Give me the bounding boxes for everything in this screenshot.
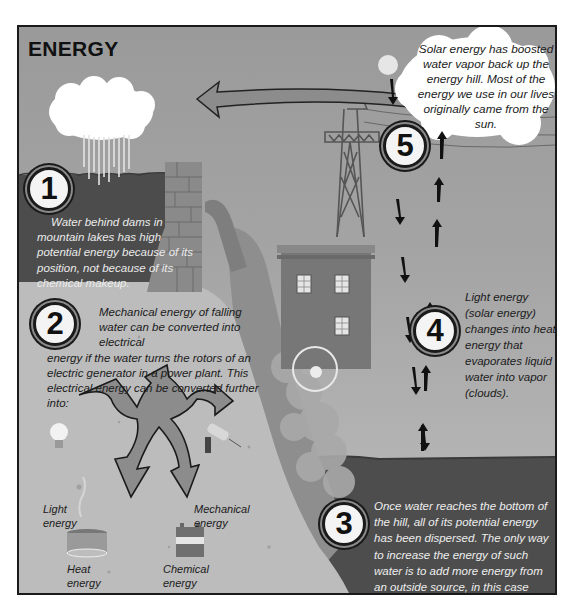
label-mechanical-energy: Mechanical energy bbox=[194, 502, 264, 530]
step-2-text-rest: energy if the water turns the rotors of … bbox=[47, 352, 259, 410]
label-heat-energy: Heat energy bbox=[67, 562, 111, 590]
page-title: ENERGY bbox=[28, 37, 119, 61]
label-chemical-energy: Chemical energy bbox=[163, 562, 223, 590]
step-badge-3: 3 bbox=[322, 502, 366, 546]
step-5-text: Solar energy has boosted water vapor bac… bbox=[417, 42, 555, 132]
step-2-text: Mechanical energy of falling water can b… bbox=[47, 305, 272, 411]
evaporation-up-arrows bbox=[418, 131, 447, 451]
step-badge-4: 4 bbox=[413, 309, 457, 353]
energy-diagram-frame: ENERGY 1 2 3 4 5 Water behind dams in mo… bbox=[17, 25, 557, 595]
step-3-text: Once water reaches the bottom of the hil… bbox=[374, 498, 554, 595]
step-2-text-lead: Mechanical energy of falling water can b… bbox=[47, 305, 272, 351]
label-light-energy: Light energy bbox=[43, 502, 87, 530]
sun bbox=[378, 55, 398, 75]
power-pylon bbox=[325, 102, 379, 237]
rain-cloud bbox=[49, 76, 155, 185]
step-1-text: Water behind dams in mountain lakes has … bbox=[37, 215, 207, 291]
step-4-text: Light energy (solar energy) changes into… bbox=[465, 289, 557, 401]
vapor-return-arrow bbox=[197, 82, 409, 117]
step-badge-1: 1 bbox=[27, 167, 71, 211]
